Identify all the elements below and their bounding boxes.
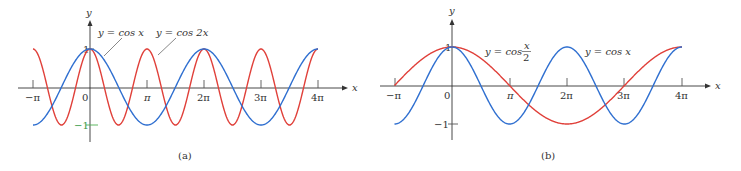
label-cos-x-over-2: y = cos x 2 <box>484 40 531 63</box>
x-axis-label: x <box>352 82 358 93</box>
x-axis-label: x <box>715 80 721 91</box>
caption-a: (a) <box>178 150 192 161</box>
y-axis-arrow-icon <box>88 20 93 26</box>
tick-label-4pi: 4π <box>311 92 324 103</box>
tick-label-3pi: 3π <box>254 92 267 103</box>
y-axis-label: y <box>448 5 455 16</box>
tick-label-neg-pi: −π <box>25 92 40 103</box>
svg-text:y = cos: y = cos <box>484 46 522 57</box>
label-cos-2x: y = cos 2x <box>155 27 209 38</box>
panel-a: x y −π 0 π 2π 3π 4π 1 −1 y = cos x y = c… <box>18 7 358 161</box>
figure: x y −π 0 π 2π 3π 4π 1 −1 y = cos x y = c… <box>0 0 741 171</box>
label-cos-x: y = cos x <box>97 27 144 38</box>
tick-label-2pi: 2π <box>197 92 210 103</box>
x-axis-arrow-icon <box>342 86 348 91</box>
label-cos-x: y = cos x <box>584 46 631 57</box>
caption-b: (b) <box>541 150 555 161</box>
y-axis-arrow-icon <box>450 19 455 25</box>
tick-label-pi: π <box>143 92 151 103</box>
y-tick-neg-1: −1 <box>74 120 89 131</box>
y-axis-label: y <box>85 7 92 18</box>
tick-label-0: 0 <box>82 92 88 103</box>
tick-label-2pi: 2π <box>560 90 573 101</box>
panel-b: x y −π 0 π 2π 3π 4π 1 −1 y = cos x 2 y =… <box>380 5 721 161</box>
y-tick-neg-1: −1 <box>434 119 449 130</box>
tick-label-neg-pi: −π <box>386 90 401 101</box>
tick-label-pi: π <box>506 90 514 101</box>
svg-text:x: x <box>524 40 530 51</box>
x-axis-arrow-icon <box>705 84 711 89</box>
tick-label-4pi: 4π <box>675 90 688 101</box>
svg-text:2: 2 <box>523 52 529 63</box>
tick-label-0: 0 <box>444 90 450 101</box>
